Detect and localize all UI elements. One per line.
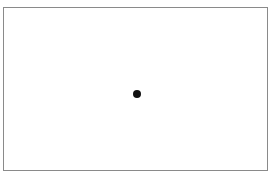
dot-marker [133,90,141,98]
canvas-frame [3,7,268,171]
